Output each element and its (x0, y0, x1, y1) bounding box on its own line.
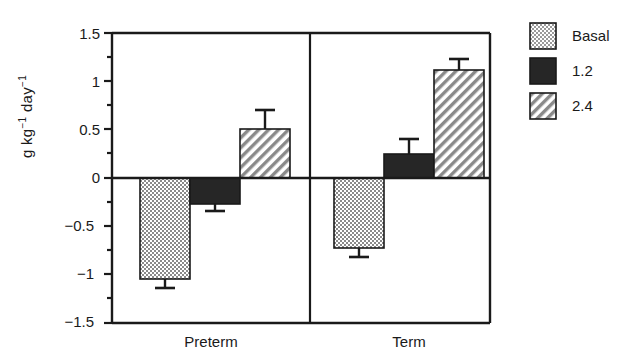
error-bar-term-basal (349, 248, 369, 257)
legend-swatch-dose2.4 (530, 93, 556, 119)
error-bar-preterm-dose2.4 (255, 110, 275, 129)
bar-term-dose1.2 (384, 154, 434, 178)
bar-term-dose2.4 (434, 70, 484, 178)
error-bar-preterm-dose1.2 (205, 204, 225, 211)
plot-area (0, 0, 636, 362)
bar-term-basal (334, 178, 384, 248)
legend-swatch-dose1.2 (530, 58, 556, 84)
error-bar-preterm-basal (155, 279, 175, 288)
bar-preterm-dose1.2 (190, 178, 240, 204)
bar-preterm-basal (140, 178, 190, 279)
legend-swatch-basal (530, 23, 556, 49)
legend-label-dose1.2: 1.2 (572, 62, 593, 79)
legend-label-basal: Basal (572, 27, 610, 44)
error-bar-term-dose2.4 (449, 59, 469, 70)
error-bar-term-dose1.2 (399, 139, 419, 154)
bar-preterm-dose2.4 (240, 129, 290, 178)
legend-label-dose2.4: 2.4 (572, 97, 593, 114)
bar-chart-figure: g kg−1 day−1 1.5 1 0.5 0 −0.5 −1 −1.5 Pr… (0, 0, 636, 362)
